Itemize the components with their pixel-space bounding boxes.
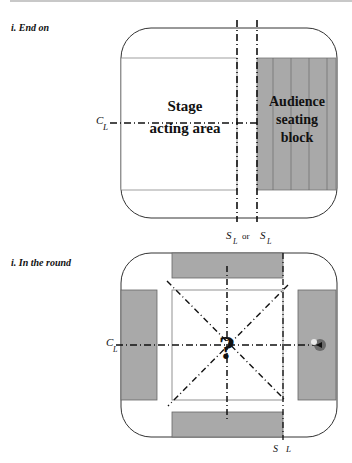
stage-label-2: acting area [150, 120, 221, 136]
end-on-diagram: Stage acting area Audience seating block… [96, 20, 337, 246]
setting-sub-left: L [232, 237, 238, 246]
audience-label-1: Audience [269, 94, 325, 109]
setting-label-left: S [226, 229, 232, 241]
setting-line-label: S [273, 443, 278, 454]
centre-line-sub: L [112, 345, 118, 354]
setting-line-sub: L [285, 444, 291, 454]
centre-line-sub: L [102, 122, 108, 132]
setting-sub-right: L [266, 237, 272, 246]
audience-label-3: block [281, 130, 314, 145]
stage-label-1: Stage [168, 98, 203, 114]
or-text: or [242, 231, 250, 241]
setting-label-right: S [260, 229, 266, 241]
in-the-round-diagram: ? C L S L [106, 253, 337, 454]
unknown-centre-symbol: ? [219, 329, 236, 366]
seating-block-bottom [172, 412, 283, 437]
audience-label-2: seating [276, 112, 318, 127]
stage-diagrams: Stage acting area Audience seating block… [0, 0, 352, 463]
seating-block-top [172, 253, 283, 278]
